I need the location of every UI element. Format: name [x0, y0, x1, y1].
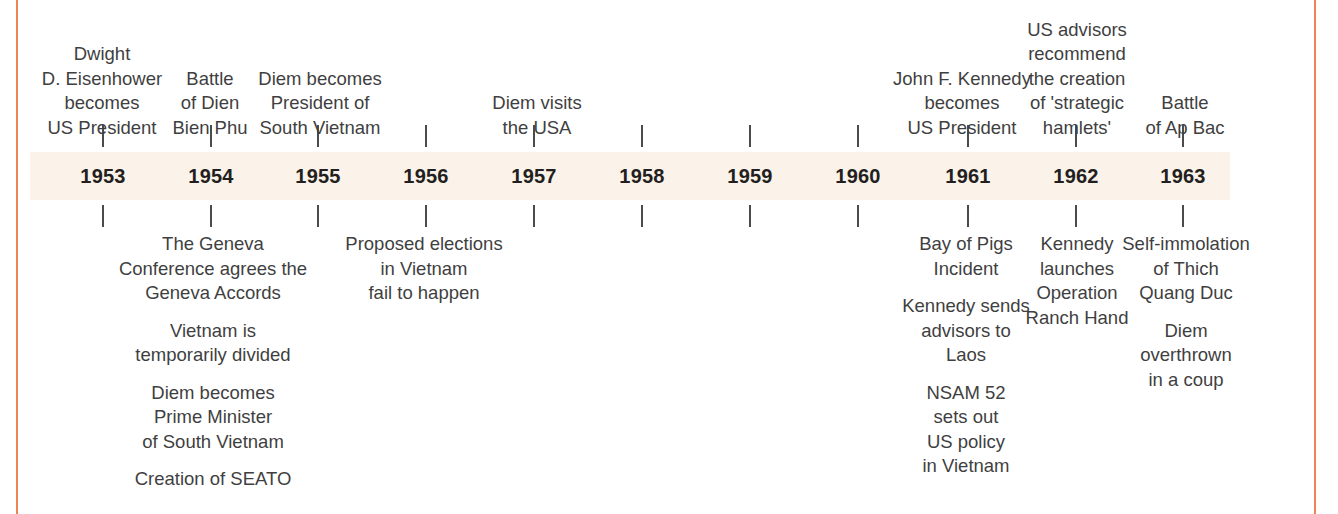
event-line: The Geneva	[106, 232, 321, 257]
tick-down-1958	[641, 205, 643, 227]
event-line: Diem becomes	[235, 67, 405, 92]
event-line: Battle	[1125, 91, 1245, 116]
event-block: Battleof Ap Bac	[1125, 91, 1245, 140]
event-line: Self-immolation	[1111, 232, 1261, 257]
event-block: NSAM 52sets outUS policyin Vietnam	[891, 381, 1041, 479]
tick-up-1959	[749, 125, 751, 147]
event-group-inner: Diem visitsthe USA	[467, 91, 607, 140]
event-line: US advisors	[1007, 18, 1147, 43]
tick-down-1960	[857, 205, 859, 227]
timeline-figure: 1953195419551956195719581959196019611962…	[0, 0, 1338, 514]
event-line: temporarily divided	[106, 343, 321, 368]
event-line: the creation	[1007, 67, 1147, 92]
tick-down-1963	[1182, 205, 1184, 227]
event-line: Dwight	[12, 42, 192, 67]
event-line: of South Vietnam	[106, 430, 321, 455]
event-block: Vietnam istemporarily divided	[106, 319, 321, 368]
year-label-1963: 1963	[1123, 164, 1243, 188]
tick-down-1956	[425, 205, 427, 227]
event-line: President of	[235, 91, 405, 116]
tick-down-1957	[533, 205, 535, 227]
event-block: Proposed electionsin Vietnamfail to happ…	[334, 232, 514, 306]
event-block: Creation of SEATO	[106, 467, 321, 492]
tick-up-1956	[425, 125, 427, 147]
event-line: Geneva Accords	[106, 281, 321, 306]
event-group-inner: The GenevaConference agrees theGeneva Ac…	[106, 232, 321, 492]
event-block: Diemoverthrownin a coup	[1111, 319, 1261, 393]
event-block: The GenevaConference agrees theGeneva Ac…	[106, 232, 321, 306]
tick-down-1961	[967, 205, 969, 227]
tick-down-1959	[749, 205, 751, 227]
event-line: Laos	[891, 343, 1041, 368]
event-line: Proposed elections	[334, 232, 514, 257]
event-line: the USA	[467, 116, 607, 141]
event-line: Vietnam is	[106, 319, 321, 344]
year-label-1953: 1953	[43, 164, 163, 188]
event-line: Quang Duc	[1111, 281, 1261, 306]
year-label-1962: 1962	[1016, 164, 1136, 188]
event-group-inner: Battleof Ap Bac	[1125, 91, 1245, 140]
event-line: Creation of SEATO	[106, 467, 321, 492]
event-line: of Thich	[1111, 257, 1261, 282]
event-group-inner: Self-immolationof ThichQuang DucDiemover…	[1111, 232, 1261, 392]
event-block: Diem becomesPresident ofSouth Vietnam	[235, 67, 405, 141]
event-line: overthrown	[1111, 343, 1261, 368]
event-line: South Vietnam	[235, 116, 405, 141]
event-block: Diem visitsthe USA	[467, 91, 607, 140]
event-line: Conference agrees the	[106, 257, 321, 282]
event-block: Diem becomesPrime Ministerof South Vietn…	[106, 381, 321, 455]
year-label-1954: 1954	[151, 164, 271, 188]
event-line: recommend	[1007, 42, 1147, 67]
year-label-1955: 1955	[258, 164, 378, 188]
event-line: Prime Minister	[106, 405, 321, 430]
event-line: Diem	[1111, 319, 1261, 344]
event-block: Self-immolationof ThichQuang Duc	[1111, 232, 1261, 306]
event-group-below-1954: The GenevaConference agrees theGeneva Ac…	[106, 232, 321, 492]
event-line: in Vietnam	[334, 257, 514, 282]
event-group-below-1956: Proposed electionsin Vietnamfail to happ…	[334, 232, 514, 306]
year-label-1956: 1956	[366, 164, 486, 188]
event-line: NSAM 52	[891, 381, 1041, 406]
year-label-1960: 1960	[798, 164, 918, 188]
year-label-1957: 1957	[474, 164, 594, 188]
event-group-inner: Proposed electionsin Vietnamfail to happ…	[334, 232, 514, 306]
event-line: Diem becomes	[106, 381, 321, 406]
event-line: fail to happen	[334, 281, 514, 306]
year-label-1959: 1959	[690, 164, 810, 188]
event-line: of Ap Bac	[1125, 116, 1245, 141]
event-line: in Vietnam	[891, 454, 1041, 479]
tick-down-1955	[317, 205, 319, 227]
tick-down-1962	[1075, 205, 1077, 227]
tick-down-1954	[210, 205, 212, 227]
tick-up-1960	[857, 125, 859, 147]
event-line: Diem visits	[467, 91, 607, 116]
year-label-1961: 1961	[908, 164, 1028, 188]
tick-down-1953	[102, 205, 104, 227]
event-group-below-1963: Self-immolationof ThichQuang DucDiemover…	[1111, 232, 1261, 392]
event-line: in a coup	[1111, 368, 1261, 393]
tick-up-1958	[641, 125, 643, 147]
year-label-1958: 1958	[582, 164, 702, 188]
event-line: sets out	[891, 405, 1041, 430]
event-group-inner: Diem becomesPresident ofSouth Vietnam	[235, 67, 405, 141]
event-line: US policy	[891, 430, 1041, 455]
right-margin-rule	[1314, 0, 1316, 514]
